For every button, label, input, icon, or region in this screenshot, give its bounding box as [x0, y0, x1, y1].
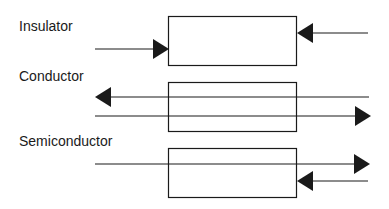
panel-insulator	[95, 17, 368, 66]
panel-conductor	[95, 83, 371, 132]
semiconductor-box	[169, 149, 297, 198]
arrow-left-icon	[95, 87, 369, 107]
diagram-canvas	[0, 0, 389, 209]
arrow-right-icon	[95, 154, 370, 174]
arrow-right-icon	[95, 39, 169, 59]
arrow-left-icon	[297, 23, 368, 43]
arrow-right-icon	[95, 106, 371, 126]
arrow-left-icon	[297, 171, 368, 191]
panel-semiconductor	[95, 149, 370, 198]
conductor-box	[169, 83, 297, 132]
insulator-box	[169, 17, 297, 66]
